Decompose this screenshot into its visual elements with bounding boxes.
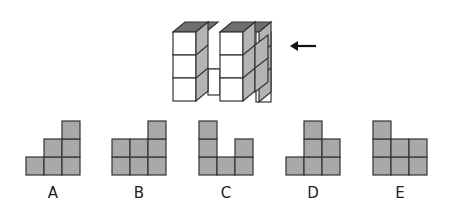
option-cell xyxy=(199,121,217,139)
option-cell xyxy=(322,157,340,175)
option-d-figure[interactable] xyxy=(286,121,340,175)
front-left-column xyxy=(173,22,208,101)
option-cell xyxy=(391,139,409,157)
option-label-e: E xyxy=(385,184,415,202)
answer-options xyxy=(26,121,427,175)
option-cell xyxy=(26,157,44,175)
option-cell xyxy=(304,157,322,175)
option-cell xyxy=(286,157,304,175)
option-cell xyxy=(44,157,62,175)
option-b-figure[interactable] xyxy=(112,121,166,175)
option-cell xyxy=(62,139,80,157)
option-label-a: A xyxy=(38,184,68,202)
option-cell xyxy=(304,139,322,157)
option-cell xyxy=(148,121,166,139)
option-cell xyxy=(235,157,253,175)
option-cell xyxy=(304,121,322,139)
option-c-figure[interactable] xyxy=(199,121,253,175)
option-cell xyxy=(217,157,235,175)
option-cell xyxy=(199,157,217,175)
option-cell xyxy=(235,139,253,157)
option-cell xyxy=(373,121,391,139)
option-cell xyxy=(112,157,130,175)
option-cell xyxy=(62,157,80,175)
option-cell xyxy=(44,139,62,157)
option-cell xyxy=(391,157,409,175)
option-cell xyxy=(409,139,427,157)
option-e-figure[interactable] xyxy=(373,121,427,175)
option-cell xyxy=(148,157,166,175)
puzzle-stage: ABCDE xyxy=(0,0,453,221)
option-cell xyxy=(199,139,217,157)
option-label-b: B xyxy=(124,184,154,202)
option-label-c: C xyxy=(211,184,241,202)
option-cell xyxy=(130,139,148,157)
option-cell xyxy=(130,157,148,175)
option-cell xyxy=(373,157,391,175)
option-label-d: D xyxy=(298,184,328,202)
option-a-figure[interactable] xyxy=(26,121,80,175)
option-cell xyxy=(62,121,80,139)
option-cell xyxy=(322,139,340,157)
option-cell xyxy=(148,139,166,157)
option-cell xyxy=(409,157,427,175)
option-cell xyxy=(112,139,130,157)
option-cell xyxy=(373,139,391,157)
view-arrow-icon xyxy=(290,41,316,51)
